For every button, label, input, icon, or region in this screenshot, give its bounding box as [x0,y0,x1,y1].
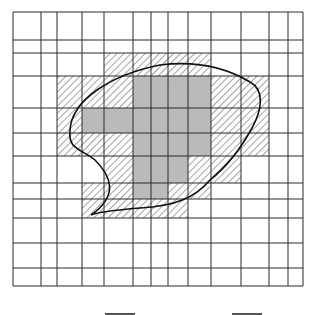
boundary-cell [104,133,133,156]
interior-cell [188,108,211,133]
interior-cell [133,133,151,156]
interior-cell [168,76,188,108]
boundary-cell [82,133,104,156]
boundary-cell [82,199,104,218]
cell-layer [57,53,269,218]
interior-cell [133,183,151,199]
boundary-cell [168,183,188,199]
interior-cell [151,183,168,199]
boundary-cell [211,108,241,133]
interior-cell [82,108,104,133]
boundary-cell [211,76,241,108]
boundary-cell [241,133,269,156]
interior-cell [133,156,151,183]
interior-cell [151,133,168,156]
interior-cell [104,108,133,133]
boundary-cell [57,76,82,108]
interior-cell [151,108,168,133]
interior-cell [151,76,168,108]
boundary-cell [188,156,211,183]
boundary-cell [82,183,104,199]
interior-cell [168,133,188,156]
boundary-cell [241,76,269,108]
interior-cell [188,133,211,156]
interior-cell [133,76,151,108]
boundary-cell [104,53,133,76]
boundary-cell [211,156,241,183]
interior-cell [188,76,211,108]
interior-cell [168,108,188,133]
interior-cell [151,156,168,183]
boundary-cell [151,199,168,218]
boundary-cell [133,53,151,76]
grid-diagram [0,0,316,315]
boundary-cell [104,76,133,108]
interior-cell [133,108,151,133]
interior-cell [168,156,188,183]
